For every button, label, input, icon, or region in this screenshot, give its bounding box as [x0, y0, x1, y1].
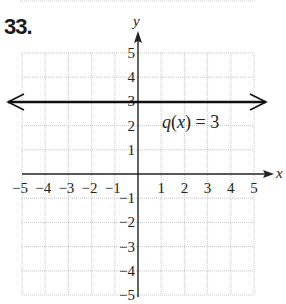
y-tick-label: 5	[128, 45, 136, 61]
x-tick-label: −2	[82, 180, 98, 196]
y-axis-label: y	[131, 13, 140, 29]
y-tick-label: −5	[119, 287, 135, 303]
x-axis-label: x	[275, 165, 283, 181]
x-tick-label: 3	[204, 180, 212, 196]
y-tick-label: −4	[119, 263, 135, 279]
x-tick-label: 4	[227, 180, 235, 196]
y-tick-label: 2	[128, 118, 136, 134]
x-tick-label: −3	[58, 180, 74, 196]
x-tick-label: 1	[157, 180, 165, 196]
axes: x y	[22, 13, 283, 297]
y-tick-label: −1	[119, 190, 135, 206]
x-tick-label: 5	[250, 180, 258, 196]
function-label: q(x) = 3	[162, 112, 219, 133]
x-tick-label: −4	[35, 180, 51, 196]
y-tick-label: 1	[128, 142, 136, 158]
x-tick-label: −5	[12, 180, 28, 196]
y-tick-label: −2	[119, 214, 135, 230]
y-tick-label: 4	[128, 69, 136, 85]
function-line-q	[8, 94, 266, 110]
coordinate-plane: x y −5−4−3−2−112345 54321−1−2−3−4−5 q(x)…	[0, 0, 286, 304]
y-tick-label: −3	[119, 239, 135, 255]
x-tick-label: 2	[181, 180, 189, 196]
